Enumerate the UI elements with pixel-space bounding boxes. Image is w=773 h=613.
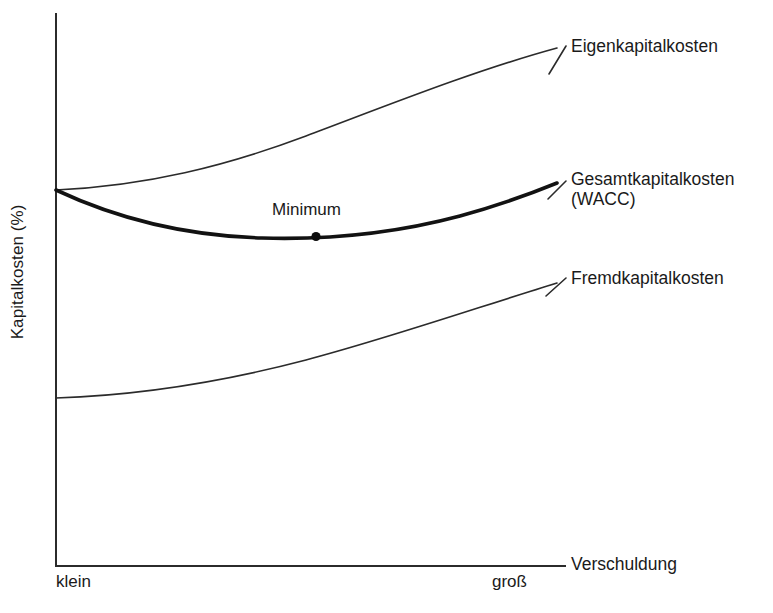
chart-page: Kapitalkosten (%) Eigenkapitalkosten Ges… (0, 0, 773, 613)
x-tick-label-high: groß (492, 572, 527, 592)
wacc-label-line2: (WACC) (571, 189, 734, 209)
minimum-marker-dot (311, 232, 320, 241)
equity-cost-curve (56, 48, 557, 190)
debt-cost-curve (56, 283, 557, 398)
x-axis-title: Verschuldung (571, 554, 677, 574)
x-tick-label-low: klein (56, 572, 91, 592)
debt-label-leader-line (546, 278, 566, 296)
wacc-label: Gesamtkapitalkosten (WACC) (571, 169, 734, 210)
debt-cost-label: Fremdkapitalkosten (571, 268, 724, 288)
minimum-annotation-label: Minimum (272, 200, 341, 220)
wacc-label-line1: Gesamtkapitalkosten (571, 169, 734, 189)
cost-of-capital-chart (0, 0, 773, 613)
equity-cost-label: Eigenkapitalkosten (571, 36, 718, 56)
